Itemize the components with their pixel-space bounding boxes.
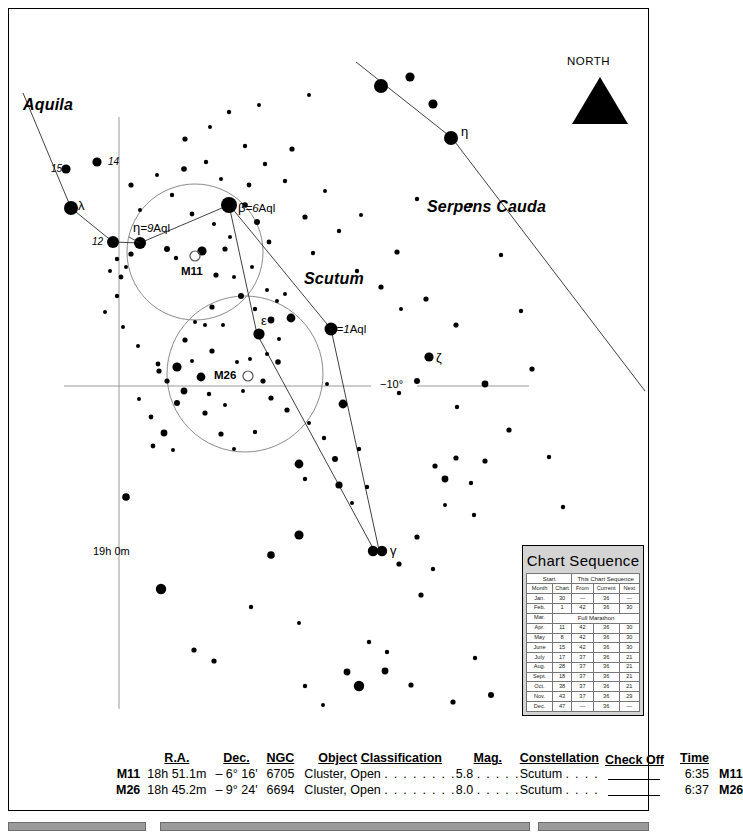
cell-current: 36 — [593, 623, 619, 633]
cell-next: 30 — [619, 603, 639, 613]
field-star — [218, 431, 223, 436]
star-label-eta-9-aql: η=9Aql — [133, 221, 170, 235]
header-ra: R.A. — [147, 751, 215, 767]
field-star — [450, 699, 455, 704]
cell-from: 37 — [572, 672, 593, 682]
field-star — [394, 249, 399, 254]
chart-sequence-row: May8423630 — [527, 633, 640, 643]
cell-current: 36 — [593, 701, 619, 711]
field-star — [428, 99, 437, 108]
field-star — [339, 400, 348, 409]
star-gamma-aql-a — [368, 546, 378, 556]
constellation-label-serpens-cauda: Serpens Cauda — [427, 199, 546, 215]
field-star — [414, 534, 419, 539]
check-off-blank[interactable] — [608, 784, 660, 796]
strip-segment-center — [160, 822, 530, 831]
constellation-label-aquila: Aquila — [23, 97, 73, 113]
chart-sequence-row: Dec.47—36— — [527, 701, 640, 711]
field-star — [193, 320, 197, 324]
spacer-cell-end — [719, 751, 743, 767]
cell-from: 37 — [572, 692, 593, 702]
field-star — [254, 219, 260, 225]
field-star — [275, 299, 279, 303]
star-beta-6-aql — [221, 197, 237, 213]
chart-sequence-row: Sept.18373621 — [527, 672, 640, 682]
cell-next: — — [619, 701, 639, 711]
field-star — [124, 265, 128, 269]
field-star — [506, 427, 511, 432]
cell-chart: 18 — [552, 672, 571, 682]
field-star — [190, 212, 195, 217]
field-star — [365, 485, 369, 489]
field-star — [156, 368, 161, 373]
field-star — [423, 296, 428, 301]
chart-sequence-column-header-row: Month Chart From Current Next — [527, 584, 640, 594]
field-star — [149, 415, 154, 420]
field-star — [268, 395, 273, 400]
alpha-eq: =1 — [337, 323, 350, 335]
field-star — [136, 344, 140, 348]
cell-messier-id-end: M11 — [719, 767, 743, 783]
check-off-blank[interactable] — [608, 768, 660, 780]
field-star — [128, 182, 133, 187]
field-star — [164, 246, 170, 252]
field-star — [209, 304, 214, 309]
field-star — [138, 208, 142, 212]
field-star — [295, 460, 304, 469]
field-star — [155, 173, 159, 177]
chart-sequence-group-header-row: Start This Chart Sequence — [527, 574, 640, 584]
field-star — [108, 269, 112, 273]
chart-sequence-table: Start This Chart Sequence Month Chart Fr… — [526, 573, 640, 712]
cell-chart: 38 — [552, 682, 571, 692]
star-15-aql — [61, 164, 70, 173]
field-star — [253, 430, 257, 434]
star-12-aql — [107, 236, 119, 248]
cell-time: 6:35 — [670, 767, 719, 783]
field-star — [284, 407, 289, 412]
cell-current: 36 — [593, 662, 619, 672]
cell-full-marathon: Full Marathon — [552, 613, 639, 623]
field-star — [303, 477, 307, 481]
cell-time: 6:37 — [670, 783, 719, 799]
dec-label-minus10: −10° — [380, 379, 403, 390]
star-gamma-aql-b — [377, 546, 387, 556]
star-label-14-aql: 14 — [108, 157, 119, 167]
cell-current: 36 — [593, 593, 619, 603]
cell-chart: 28 — [552, 662, 571, 672]
field-star — [335, 481, 342, 488]
chart-sequence-title: Chart Sequence — [526, 549, 640, 573]
object-table-header-row: R.A. Dec. NGC Object Classification Mag.… — [116, 751, 743, 767]
cell-month: Apr. — [527, 623, 553, 633]
cell-ra: 18h 45.2m — [147, 783, 215, 799]
star-label-zeta: ζ — [436, 351, 442, 364]
field-star — [247, 183, 252, 188]
field-star — [443, 503, 447, 507]
col-header-next: Next — [619, 584, 639, 594]
cell-ra: 18h 51.1m — [147, 767, 215, 783]
field-star — [260, 378, 265, 383]
cell-check-off — [599, 783, 670, 799]
cell-ngc: 6694 — [267, 783, 305, 799]
field-star — [212, 222, 216, 226]
field-star — [455, 405, 459, 409]
field-star — [337, 229, 341, 233]
cell-month: Aug. — [527, 662, 553, 672]
star-label-epsilon: ε — [261, 314, 267, 327]
field-star — [115, 294, 119, 298]
field-star — [213, 272, 218, 277]
cell-ngc: 6705 — [267, 767, 305, 783]
group-header-start: Start — [527, 574, 572, 584]
field-star — [307, 421, 311, 425]
field-star — [561, 505, 565, 509]
line-beta-alpha — [231, 207, 331, 329]
field-star — [257, 103, 261, 107]
messier-label-m26: M26 — [214, 370, 236, 382]
field-star — [170, 193, 174, 197]
field-star — [432, 463, 437, 468]
ra-label-19h0m: 19h 0m — [93, 546, 130, 557]
field-star — [277, 337, 281, 341]
field-star — [181, 166, 187, 172]
field-star — [238, 293, 244, 299]
header-dec: Dec. — [215, 751, 266, 767]
